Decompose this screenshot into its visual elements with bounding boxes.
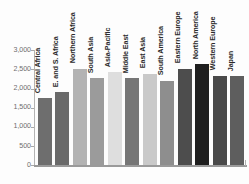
bar-group[interactable]: Northern Africa (73, 0, 87, 165)
bar-group[interactable]: South Asia (90, 0, 104, 165)
y-axis-tick-label: 3,000 (0, 47, 31, 54)
bar-category-label: Northern Africa (69, 12, 76, 63)
bar-category-label: Middle East (121, 34, 128, 73)
bar-category-label: Eastern Europe (174, 11, 181, 63)
y-axis-tick-label: 500 (0, 143, 31, 150)
bar[interactable] (108, 72, 122, 165)
bar-category-label: Central Africa (34, 47, 41, 92)
x-axis-baseline (34, 165, 247, 166)
y-axis-tick-label: 2,500 (0, 66, 31, 73)
bar[interactable] (178, 69, 192, 166)
y-axis-tick-mark (31, 127, 34, 128)
bar-category-label: South Asia (86, 36, 93, 72)
bar[interactable] (143, 74, 157, 165)
bar-category-label: Western Europe (209, 16, 216, 70)
y-axis-tick-label: 0 (0, 162, 31, 169)
y-axis-tick-mark (31, 165, 34, 166)
bar-group[interactable]: Japan (230, 0, 244, 165)
bar[interactable] (73, 69, 87, 166)
bar-category-label: Japan (226, 51, 233, 71)
y-axis-tick-mark (31, 50, 34, 51)
bar[interactable] (125, 78, 139, 165)
y-axis-tick-mark (31, 69, 34, 70)
bar[interactable] (38, 98, 52, 165)
bar-category-label: East Asia (139, 37, 146, 68)
y-axis-tick-label: 1,000 (0, 123, 31, 130)
bar-group[interactable]: Central Africa (38, 0, 52, 165)
y-axis-tick-mark (31, 89, 34, 90)
y-axis-tick-mark (31, 146, 34, 147)
y-axis-tick-label: 2,000 (0, 85, 31, 92)
bar-group[interactable]: Eastern Europe (178, 0, 192, 165)
y-axis-tick-label: 1,500 (0, 104, 31, 111)
bar[interactable] (90, 78, 104, 165)
bar-group[interactable]: Western Europe (213, 0, 227, 165)
bar[interactable] (213, 76, 227, 166)
bar-category-label: E. and S. Africa (51, 36, 58, 87)
bar-group[interactable]: Middle East (125, 0, 139, 165)
bar-group[interactable]: Asia-Pacific (108, 0, 122, 165)
bar-group[interactable]: East Asia (143, 0, 157, 165)
bar-chart: 05001,0001,5002,0002,5003,000 Central Af… (0, 0, 249, 184)
bar-category-label: South America (156, 26, 163, 75)
bar-category-label: North America (191, 11, 198, 59)
bar[interactable] (195, 64, 209, 165)
bar[interactable] (230, 76, 244, 165)
y-axis-tick-labels: 05001,0001,5002,0002,5003,000 (0, 0, 31, 184)
y-axis-tick-mark (31, 108, 34, 109)
bar[interactable] (55, 92, 69, 165)
bar-category-label: Asia-Pacific (104, 27, 111, 67)
plot-area: Central AfricaE. and S. AfricaNorthern A… (36, 0, 246, 165)
bar[interactable] (160, 81, 174, 166)
